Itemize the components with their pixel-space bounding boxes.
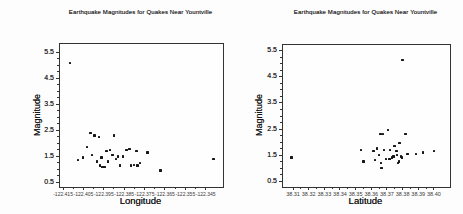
data-point <box>392 155 394 157</box>
y-tick-label: 0.5 <box>256 177 277 184</box>
data-point <box>380 167 382 169</box>
x-minor-tick-mark <box>426 187 427 189</box>
x-minor-tick-mark <box>175 187 176 189</box>
data-point <box>372 150 374 152</box>
magnitude-vs-latitude-chart: Earthquake Magnitudes for Quakes Near Yo… <box>232 0 463 214</box>
data-point <box>91 154 93 156</box>
x-minor-tick-mark <box>113 187 114 189</box>
data-point <box>111 154 113 156</box>
y-minor-tick-mark <box>57 71 60 72</box>
y-tick-label: 4.5 <box>256 72 277 79</box>
data-point <box>380 162 382 164</box>
data-point <box>135 150 137 152</box>
y-tick-label: 3.5 <box>33 100 54 107</box>
data-point <box>98 136 100 138</box>
data-point <box>401 59 403 61</box>
x-tick-mark <box>164 187 165 190</box>
data-point <box>77 159 79 161</box>
y-minor-tick-mark <box>280 168 283 169</box>
y-tick-label: 0.5 <box>33 178 54 185</box>
data-point <box>401 156 403 158</box>
y-minor-tick-mark <box>57 97 60 98</box>
y-tick-mark <box>279 129 283 130</box>
y-tick-label: 5.5 <box>256 46 277 53</box>
data-point <box>212 158 214 160</box>
y-tick-mark <box>56 78 60 79</box>
data-point <box>139 162 141 164</box>
data-point <box>376 147 378 149</box>
y-tick-mark <box>279 181 283 182</box>
x-axis-label: Latitude <box>282 195 449 206</box>
data-point <box>103 166 105 168</box>
y-tick-mark <box>56 182 60 183</box>
data-point <box>378 154 380 156</box>
earthquake-scatter-figure: Earthquake Magnitudes for Quakes Near Yo… <box>0 0 463 214</box>
x-tick-mark <box>83 187 84 190</box>
data-point <box>362 160 364 162</box>
data-point <box>130 164 132 166</box>
chart-title: Earthquake Magnitudes for Quakes Near Yo… <box>59 9 222 15</box>
y-tick-label: 1.5 <box>256 151 277 158</box>
data-point <box>86 146 88 148</box>
data-point <box>133 164 135 166</box>
x-minor-tick-mark <box>300 187 301 189</box>
y-minor-tick-mark <box>57 117 60 118</box>
y-minor-tick-mark <box>280 109 283 110</box>
data-point <box>382 133 384 135</box>
x-minor-tick-mark <box>363 187 364 189</box>
chart-title: Earthquake Magnitudes for Quakes Near Yo… <box>282 9 449 15</box>
y-minor-tick-mark <box>57 84 60 85</box>
x-tick-mark <box>433 187 434 190</box>
data-point <box>69 62 71 64</box>
data-point <box>398 142 400 144</box>
x-tick-mark <box>144 187 145 190</box>
y-minor-tick-mark <box>280 96 283 97</box>
data-point <box>406 153 408 155</box>
data-point <box>117 155 119 157</box>
x-tick-mark <box>308 187 309 190</box>
x-minor-tick-mark <box>134 187 135 189</box>
data-point <box>122 155 124 157</box>
y-tick-label: 2.5 <box>256 125 277 132</box>
y-tick-mark <box>279 50 283 51</box>
data-point <box>389 149 391 151</box>
y-tick-label: 5.5 <box>33 48 54 55</box>
data-point <box>393 145 395 147</box>
x-minor-tick-mark <box>347 187 348 189</box>
y-minor-tick-mark <box>57 149 60 150</box>
x-tick-mark <box>103 187 104 190</box>
data-point <box>96 160 98 162</box>
y-tick-label: 1.5 <box>33 152 54 159</box>
x-minor-tick-mark <box>195 187 196 189</box>
y-minor-tick-mark <box>280 148 283 149</box>
x-minor-tick-mark <box>410 187 411 189</box>
data-point <box>136 164 138 166</box>
data-point <box>404 133 406 135</box>
x-tick-mark <box>386 187 387 190</box>
x-tick-mark <box>339 187 340 190</box>
data-point <box>433 150 435 152</box>
y-minor-tick-mark <box>57 58 60 59</box>
data-point <box>396 154 398 156</box>
y-minor-tick-mark <box>280 161 283 162</box>
data-point <box>100 156 102 158</box>
data-point <box>109 149 111 151</box>
data-point <box>125 149 127 151</box>
x-tick-mark <box>185 187 186 190</box>
data-point <box>387 129 389 131</box>
y-minor-tick-mark <box>280 174 283 175</box>
y-tick-mark <box>56 52 60 53</box>
x-minor-tick-mark <box>154 187 155 189</box>
y-tick-label: 3.5 <box>256 98 277 105</box>
plot-area: -122.415-122.405-122.395-122.385-122.375… <box>59 43 224 188</box>
y-minor-tick-mark <box>280 89 283 90</box>
data-point <box>107 160 109 162</box>
data-point <box>383 149 385 151</box>
y-minor-tick-mark <box>57 175 60 176</box>
y-tick-mark <box>279 155 283 156</box>
data-point <box>374 159 376 161</box>
y-minor-tick-mark <box>280 83 283 84</box>
y-minor-tick-mark <box>57 143 60 144</box>
y-tick-mark <box>56 130 60 131</box>
data-point <box>415 153 417 155</box>
